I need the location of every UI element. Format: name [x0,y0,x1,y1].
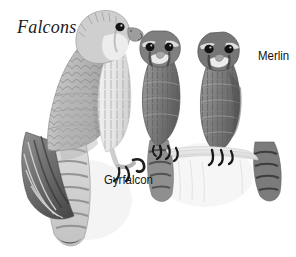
species-label-gyrfalcon: Gyrfalcon [104,173,153,187]
falcon-illustration-plate: Falcons Gyrfalcon Merlin [0,0,296,257]
falcon-artwork [0,0,296,257]
page-title: Falcons [17,17,76,37]
species-label-merlin: Merlin [258,49,289,63]
